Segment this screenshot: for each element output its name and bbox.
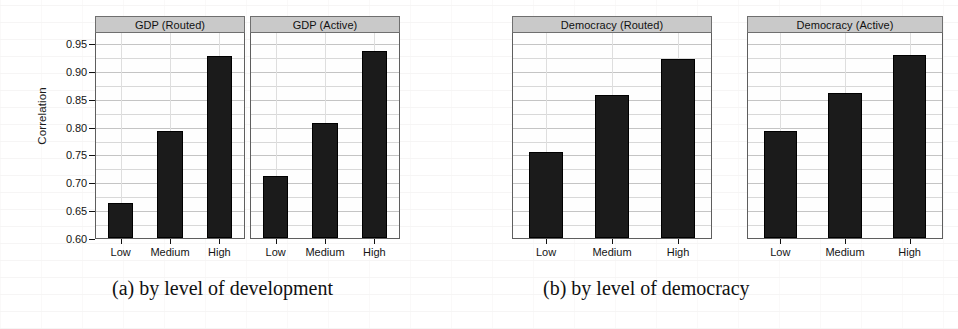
x-axis-tick-label: High (208, 246, 231, 258)
x-axis-tick-mark (678, 239, 679, 244)
bar (362, 51, 388, 238)
x-axis-tick-mark (374, 239, 375, 244)
plot-area-0 (95, 33, 245, 239)
x-axis-tick-label: High (898, 246, 921, 258)
bar (828, 93, 862, 238)
x-axis-tick-label: High (667, 246, 690, 258)
y-axis-tick-label: 0.70 (66, 177, 87, 189)
panel-gdp-routed: GDP (Routed) LowMediumHigh (95, 16, 245, 262)
x-axis-tick-label: Medium (592, 246, 631, 258)
x-axis-tick-mark (612, 239, 613, 244)
x-axis-tick-label: Low (770, 246, 790, 258)
y-axis-tick-label: 0.90 (66, 66, 87, 78)
y-axis: 0.600.650.700.750.800.850.900.95 (55, 0, 95, 262)
x-axis-tick-label: Low (536, 246, 556, 258)
y-axis-tick-label: 0.95 (66, 38, 87, 50)
figure-panel-grid: Correlation 0.600.650.700.750.800.850.90… (0, 0, 958, 329)
subfigure-caption-b: (b) by level of democracy (543, 277, 750, 300)
panel-title-strip-0: GDP (Routed) (95, 16, 245, 33)
x-axis-tick-label: Low (111, 246, 131, 258)
panel-title-strip-2: Democracy (Routed) (512, 16, 712, 33)
x-axis-tick-mark (170, 239, 171, 244)
x-axis-tick-label: Low (266, 246, 286, 258)
bar (312, 123, 338, 238)
x-axis-tick-label: Medium (150, 246, 189, 258)
x-axis-tick-label: Medium (305, 246, 344, 258)
x-axis-tick-mark (780, 239, 781, 244)
x-axis-tick-mark (910, 239, 911, 244)
x-axis-tick-mark (121, 239, 122, 244)
panel-title-strip-1: GDP (Active) (250, 16, 400, 33)
x-axis-tick-mark (219, 239, 220, 244)
bar (893, 55, 927, 238)
bar (263, 176, 289, 238)
panel-democracy-active: Democracy (Active) LowMediumHigh (747, 16, 943, 262)
subfigure-caption-a: (a) by level of development (112, 277, 333, 300)
bar (529, 152, 563, 238)
plot-area-2 (512, 33, 712, 239)
y-axis-tick-label: 0.85 (66, 94, 87, 106)
y-axis-tick-label: 0.75 (66, 149, 87, 161)
plot-area-3 (747, 33, 943, 239)
bar (764, 131, 798, 238)
y-axis-tick-label: 0.80 (66, 122, 87, 134)
facet-panels-row: Correlation 0.600.650.700.750.800.850.90… (0, 0, 958, 262)
bar (595, 95, 629, 238)
panel-democracy-routed: Democracy (Routed) LowMediumHigh (512, 16, 712, 262)
bar (157, 131, 183, 238)
y-axis-tick-label: 0.65 (66, 205, 87, 217)
panel-gdp-active: GDP (Active) LowMediumHigh (250, 16, 400, 262)
bar (661, 59, 695, 238)
y-axis-title: Correlation (36, 56, 48, 176)
x-axis-tick-mark (276, 239, 277, 244)
x-axis-tick-label: Medium (825, 246, 864, 258)
panel-title-strip-3: Democracy (Active) (747, 16, 943, 33)
plot-area-1 (250, 33, 400, 239)
x-axis-tick-mark (325, 239, 326, 244)
x-axis-tick-label: High (363, 246, 386, 258)
x-axis-tick-mark (546, 239, 547, 244)
bar (207, 56, 233, 238)
bar (108, 203, 134, 238)
y-axis-tick-label: 0.60 (66, 233, 87, 245)
x-axis-tick-mark (845, 239, 846, 244)
